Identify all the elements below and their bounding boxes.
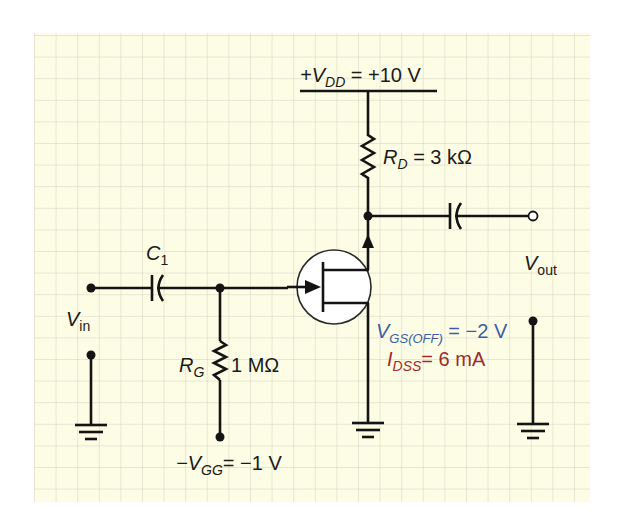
jfet-amplifier-schematic: +VDD = +10 V RD = 3 kΩ Vout V xyxy=(0,0,625,527)
vout-terminal xyxy=(529,212,538,221)
vgg-terminal xyxy=(216,433,225,442)
rg-value-label: 1 MΩ xyxy=(231,354,279,376)
